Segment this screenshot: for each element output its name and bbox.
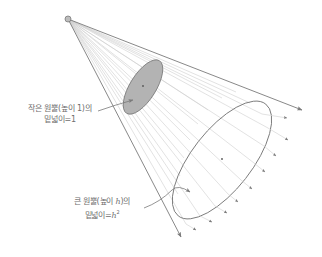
large-cone-label-line2: 밑넓이=h2 xyxy=(60,207,144,221)
small-base-center xyxy=(142,85,144,87)
large-cone-base xyxy=(155,86,290,235)
large-label-end: )의 xyxy=(120,197,130,206)
cone-diagram xyxy=(0,0,322,257)
small-cone-label-line2: 밑넓이=1 xyxy=(20,114,100,125)
large-cone-label-line1: 큰 원뿔(높이 h)의 xyxy=(60,196,144,207)
rim-arrows xyxy=(186,114,288,230)
large-label-text: 큰 원뿔(높이 xyxy=(74,197,116,206)
large-label-exp: 2 xyxy=(116,209,119,215)
small-cone-label: 작은 원뿔(높이 1)의 밑넓이=1 xyxy=(20,103,100,125)
large-label-area: 밑넓이= xyxy=(85,211,112,220)
cone-top-edge xyxy=(68,19,302,110)
large-base-center xyxy=(221,158,223,160)
apex-point xyxy=(65,16,71,22)
small-cone-label-line1: 작은 원뿔(높이 1)의 xyxy=(20,103,100,114)
large-cone-label: 큰 원뿔(높이 h)의 밑넓이=h2 xyxy=(60,196,144,221)
